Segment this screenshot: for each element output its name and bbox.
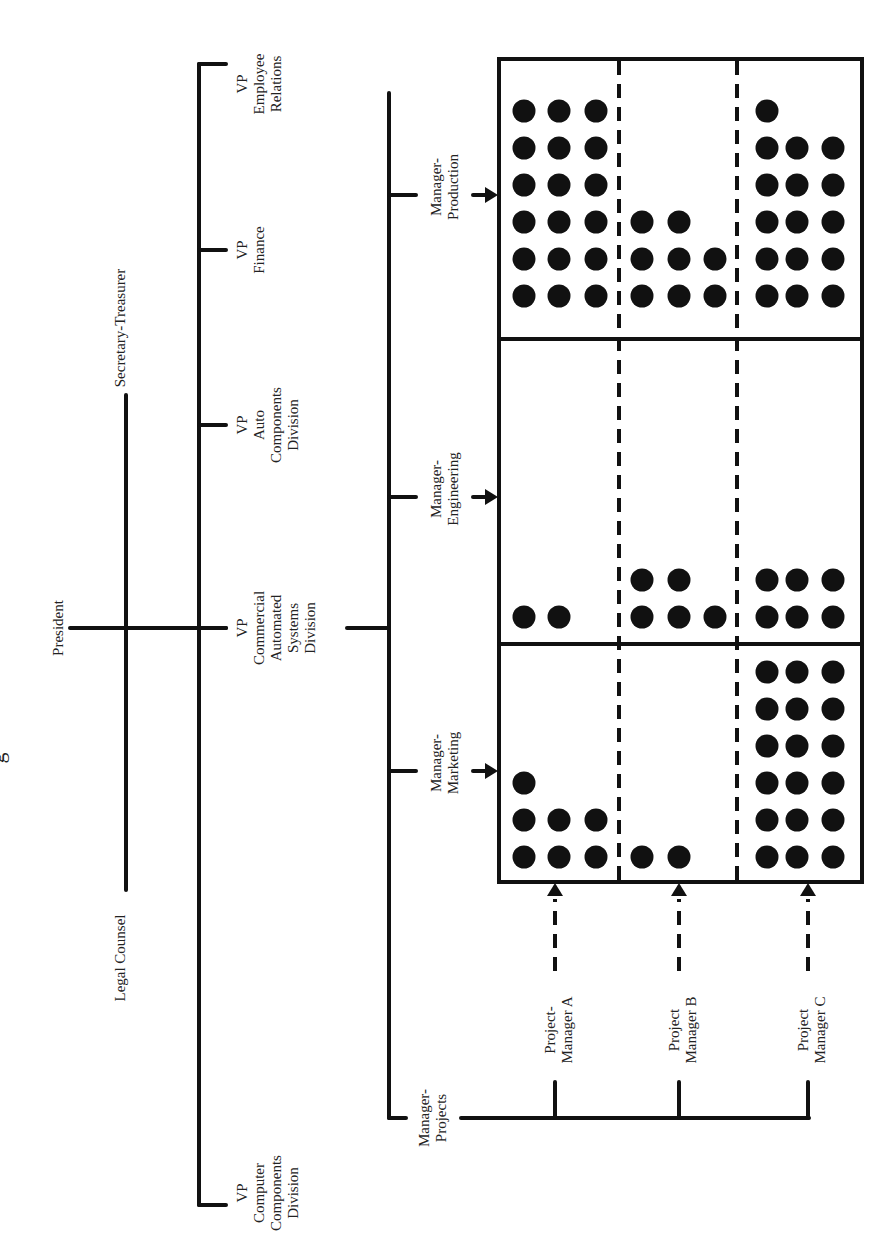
personnel-dot	[786, 174, 809, 197]
personnel-dot	[585, 137, 608, 160]
personnel-dot	[548, 285, 571, 308]
project-manager-label-a-line: Manager A	[559, 996, 575, 1063]
personnel-dot	[668, 285, 691, 308]
arrow-right-icon	[485, 763, 498, 779]
personnel-dot	[513, 100, 536, 123]
president-label: President	[50, 599, 66, 656]
vp-label-auto-components-line: Division	[285, 399, 301, 451]
vp-label-computer-components: VPComputerComponentsDivision	[234, 1155, 301, 1231]
personnel-dot	[548, 846, 571, 869]
personnel-dot	[756, 661, 779, 684]
personnel-dot	[631, 846, 654, 869]
personnel-dot	[668, 606, 691, 629]
vp-label-auto-components: VPAutoComponentsDivision	[234, 387, 301, 463]
manager-label-marketing: Manager-Marketing	[428, 731, 461, 794]
project-manager-label-c-line: Manager C	[812, 996, 828, 1063]
personnel-dot	[513, 772, 536, 795]
personnel-dot	[585, 285, 608, 308]
personnel-dot	[585, 248, 608, 271]
manager-label-marketing-line: Marketing	[445, 731, 461, 794]
personnel-dot	[786, 606, 809, 629]
personnel-dot	[513, 285, 536, 308]
manager-label-production-line: Manager-	[428, 158, 444, 216]
manager-label-engineering-line: Manager-	[428, 460, 444, 518]
hierarchy-lines	[70, 64, 816, 1205]
arrow-up-icon	[547, 883, 563, 896]
personnel-dot	[704, 285, 727, 308]
personnel-dot	[513, 809, 536, 832]
personnel-dot	[668, 248, 691, 271]
vp-label-employee-relations: VPEmployeeRelations	[234, 53, 284, 114]
personnel-dot	[822, 735, 845, 758]
manager-ticks	[389, 187, 498, 779]
manager-label-production-line: Production	[445, 154, 461, 220]
vp-label-auto-components-line: Components	[268, 387, 284, 463]
personnel-dot	[513, 174, 536, 197]
vp-label-finance-line: Finance	[251, 226, 267, 274]
personnel-dot	[548, 606, 571, 629]
personnel-dot	[822, 846, 845, 869]
vp-label-employee-relations-line: Relations	[268, 56, 284, 113]
personnel-dot	[631, 211, 654, 234]
personnel-dots	[513, 100, 845, 869]
personnel-dot	[548, 809, 571, 832]
personnel-dot	[786, 137, 809, 160]
vp-label-employee-relations-line: VP	[234, 74, 250, 93]
personnel-dot	[668, 569, 691, 592]
personnel-dot	[822, 137, 845, 160]
personnel-dot	[822, 174, 845, 197]
arrow-right-icon	[485, 187, 498, 203]
personnel-dot	[786, 735, 809, 758]
manager-label-marketing-line: Manager-	[428, 734, 444, 792]
personnel-dot	[631, 569, 654, 592]
secretary-treasurer-label: Secretary-Treasurer	[112, 269, 128, 388]
vp-label-computer-components-line: VP	[234, 1183, 250, 1202]
legal-counsel-label: Legal Counsel	[112, 914, 128, 1001]
personnel-dot	[786, 248, 809, 271]
project-manager-label-b-line: Project	[666, 1008, 682, 1051]
personnel-dot	[548, 100, 571, 123]
personnel-dot	[756, 285, 779, 308]
personnel-dot	[585, 809, 608, 832]
personnel-dot	[756, 174, 779, 197]
vp-label-computer-components-line: Division	[285, 1167, 301, 1219]
personnel-dot	[513, 211, 536, 234]
matrix-grid	[499, 59, 862, 882]
legal-counsel-label-line: Legal Counsel	[112, 914, 128, 1001]
personnel-dot	[786, 846, 809, 869]
personnel-dot	[585, 100, 608, 123]
personnel-dot	[756, 698, 779, 721]
vp-label-finance-line: VP	[234, 240, 250, 259]
personnel-dot	[786, 661, 809, 684]
project-manager-label-c-line: Project	[795, 1008, 811, 1051]
personnel-dot	[822, 248, 845, 271]
personnel-dot	[513, 248, 536, 271]
manager-projects-label-line: Projects	[433, 1094, 449, 1142]
personnel-dot	[822, 772, 845, 795]
personnel-dot	[513, 137, 536, 160]
manager-label-engineering: Manager-Engineering	[428, 452, 461, 526]
vp-label-finance: VPFinance	[234, 226, 267, 274]
personnel-dot	[513, 606, 536, 629]
personnel-dot	[756, 137, 779, 160]
vp-label-commercial-automated-systems-line: Division	[302, 602, 318, 654]
personnel-dot	[631, 606, 654, 629]
personnel-dot	[585, 174, 608, 197]
manager-projects-label-line: Manager-	[416, 1089, 432, 1147]
vp-label-auto-components-line: Auto	[251, 410, 267, 440]
personnel-dot	[756, 735, 779, 758]
personnel-dot	[756, 809, 779, 832]
matrix-organization-chart: gPresidentSecretary-TreasurerLegal Couns…	[0, 0, 887, 1236]
personnel-dot	[513, 846, 536, 869]
secretary-treasurer-label-line: Secretary-Treasurer	[112, 269, 128, 388]
personnel-dot	[704, 606, 727, 629]
personnel-dot	[704, 248, 727, 271]
personnel-dot	[548, 211, 571, 234]
personnel-dot	[548, 137, 571, 160]
personnel-dot	[668, 846, 691, 869]
personnel-dot	[756, 772, 779, 795]
project-manager-label-b-line: Manager B	[683, 996, 699, 1063]
president-label-line: President	[50, 599, 66, 656]
personnel-dot	[756, 248, 779, 271]
personnel-dot	[756, 100, 779, 123]
